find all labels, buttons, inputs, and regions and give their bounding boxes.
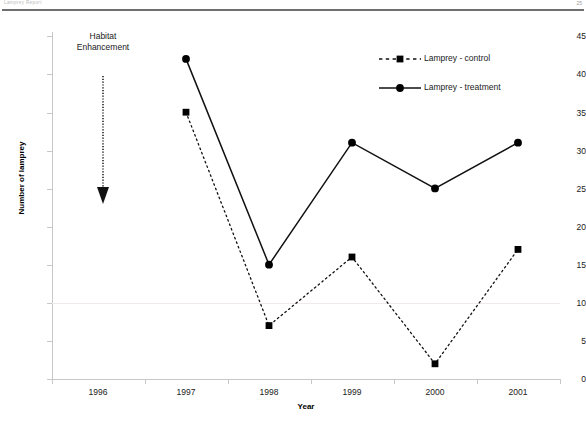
data-point-treatment-2001 [514, 139, 522, 147]
header-divider [2, 9, 584, 11]
data-point-control-2000 [432, 360, 439, 367]
legend-item-control: Lamprey - control [378, 52, 568, 66]
data-point-control-1998 [266, 322, 273, 329]
chart-legend: Lamprey - control Lamprey - treatment [378, 52, 568, 100]
down-arrow-dotted-icon [86, 74, 120, 206]
series-lamprey-control [183, 109, 522, 367]
legend-label-treatment: Lamprey - treatment [424, 83, 501, 92]
lamprey-line-chart: 45 40 35 30 25 20 15 10 5 0 1996 1997 19… [0, 14, 586, 429]
data-point-treatment-1998 [265, 261, 273, 269]
data-point-treatment-1997 [182, 55, 190, 63]
legend-label-control: Lamprey - control [424, 54, 490, 63]
data-point-treatment-2000 [431, 185, 439, 193]
legend-item-treatment: Lamprey - treatment [378, 81, 568, 95]
page-number: 25 [576, 0, 582, 6]
legend-swatch-control [378, 52, 422, 66]
habitat-enhancement-annotation: Habitat Enhancement [62, 31, 144, 52]
data-point-control-1997 [183, 109, 190, 116]
header-left-text: Lamprey Report [4, 0, 42, 5]
data-point-control-2001 [515, 246, 522, 253]
series-line-control [186, 112, 518, 364]
data-point-control-1999 [349, 254, 356, 261]
page-header: Lamprey Report 25 [0, 0, 586, 14]
habitat-annotation-line1: Habitat [62, 31, 144, 42]
data-point-treatment-1999 [348, 139, 356, 147]
arrow-head [97, 187, 109, 204]
habitat-annotation-line2: Enhancement [62, 42, 144, 53]
legend-swatch-treatment [378, 81, 422, 95]
